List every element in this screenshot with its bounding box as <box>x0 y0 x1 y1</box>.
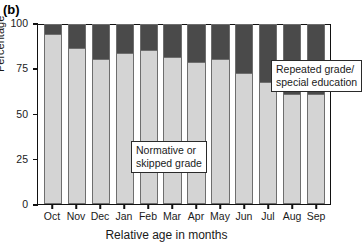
stacked-bar[interactable] <box>116 24 134 204</box>
bar-segment-normative <box>164 57 180 203</box>
bar-slot <box>137 24 161 204</box>
x-axis-label-nov: Nov <box>64 210 88 222</box>
x-axis-label-aug: Aug <box>280 210 304 222</box>
y-tick-label: 50 <box>16 108 28 120</box>
bar-segment-normative <box>308 94 324 203</box>
bar-slot <box>208 24 232 204</box>
annotation-line-2: special education <box>276 76 357 89</box>
bar-segment-normative <box>141 50 157 203</box>
x-axis-title: Relative age in months <box>0 228 333 242</box>
stacked-bar[interactable] <box>259 24 277 204</box>
x-tick-mark <box>195 205 197 209</box>
x-axis-labels: OctNovDecJanFebMarAprMayJunJulAugSep <box>37 210 331 222</box>
stacked-bar[interactable] <box>163 24 181 204</box>
bar-segment-normative <box>93 59 109 203</box>
y-tick-label: 100 <box>10 17 28 29</box>
bar-segment-normative <box>117 53 133 203</box>
x-tick-mark <box>291 205 293 209</box>
annotation-line-1: Normative or <box>136 144 202 157</box>
x-axis-label-sep: Sep <box>304 210 328 222</box>
stacked-bar[interactable] <box>307 24 325 204</box>
annotation-line-2: skipped grade <box>136 157 202 170</box>
x-axis-label-oct: Oct <box>40 210 64 222</box>
x-axis-label-dec: Dec <box>88 210 112 222</box>
x-axis-label-feb: Feb <box>136 210 160 222</box>
x-tick-mark <box>219 205 221 209</box>
x-tick-mark <box>267 205 269 209</box>
x-axis-label-may: May <box>208 210 232 222</box>
bar-slot <box>232 24 256 204</box>
bar-slot <box>113 24 137 204</box>
x-tick-mark <box>99 205 101 209</box>
bar-slot <box>89 24 113 204</box>
stacked-bar[interactable] <box>211 24 229 204</box>
bar-segment-normative <box>69 48 85 203</box>
stacked-bar[interactable] <box>140 24 158 204</box>
bar-segment-normative <box>212 59 228 203</box>
bar-segment-normative <box>188 62 204 203</box>
annotation-repeated: Repeated grade/ special education <box>271 60 362 92</box>
bar-slot <box>65 24 89 204</box>
stacked-bar[interactable] <box>283 24 301 204</box>
bar-slot <box>161 24 185 204</box>
bar-slot <box>304 24 328 204</box>
y-axis-title: Percentage <box>0 0 6 72</box>
x-tick-mark <box>243 205 245 209</box>
x-tick-mark <box>51 205 53 209</box>
x-tick-mark <box>171 205 173 209</box>
bar-slot <box>256 24 280 204</box>
bar-segment-normative <box>45 34 61 203</box>
bar-slot <box>280 24 304 204</box>
annotation-normative: Normative or skipped grade <box>131 141 207 173</box>
x-tick-mark <box>75 205 77 209</box>
x-axis-label-jan: Jan <box>112 210 136 222</box>
x-axis-label-apr: Apr <box>184 210 208 222</box>
stacked-bar[interactable] <box>92 24 110 204</box>
bar-segment-normative <box>260 82 276 203</box>
bar-segment-normative <box>236 73 252 203</box>
annotation-line-1: Repeated grade/ <box>276 63 357 76</box>
y-tick-label: 25 <box>16 153 28 165</box>
x-axis-label-jul: Jul <box>256 210 280 222</box>
bar-group <box>38 24 331 204</box>
x-tick-mark <box>123 205 125 209</box>
stacked-bar[interactable] <box>187 24 205 204</box>
y-tick-label: 75 <box>16 62 28 74</box>
x-axis-label-jun: Jun <box>232 210 256 222</box>
x-tick-mark <box>315 205 317 209</box>
x-tick-mark <box>147 205 149 209</box>
bar-segment-normative <box>284 94 300 203</box>
bar-slot <box>185 24 209 204</box>
x-axis-label-mar: Mar <box>160 210 184 222</box>
stacked-bar[interactable] <box>44 24 62 204</box>
y-tick-label: 0 <box>22 198 28 210</box>
stacked-bar[interactable] <box>68 24 86 204</box>
stacked-bar[interactable] <box>235 24 253 204</box>
bar-slot <box>41 24 65 204</box>
plot-area: 0 25 50 75 100 Normative or skipped grad… <box>37 24 331 205</box>
